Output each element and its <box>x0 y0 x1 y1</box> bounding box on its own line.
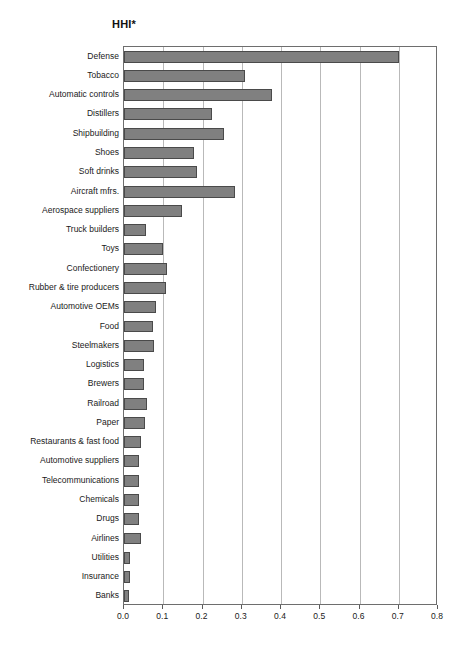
bar <box>124 70 245 82</box>
bar <box>124 590 129 602</box>
bar <box>124 340 154 352</box>
bar <box>124 89 272 101</box>
y-axis-label: Logistics <box>0 359 119 369</box>
bar <box>124 533 141 545</box>
y-axis-label: Automotive suppliers <box>0 455 119 465</box>
bar-row <box>124 494 436 506</box>
y-axis-label: Utilities <box>0 552 119 562</box>
y-axis-label: Steelmakers <box>0 340 119 350</box>
bar <box>124 282 166 294</box>
y-axis-label: Chemicals <box>0 494 119 504</box>
x-axis-tick-label: 0.8 <box>431 611 443 621</box>
y-axis-label: Paper <box>0 417 119 427</box>
x-axis-tick <box>241 605 242 609</box>
x-axis-tick <box>202 605 203 609</box>
bar-row <box>124 166 436 178</box>
bar <box>124 108 212 120</box>
x-axis: 0.00.10.20.30.40.50.60.70.8 <box>123 605 437 635</box>
bar-row <box>124 147 436 159</box>
bar-row <box>124 243 436 255</box>
bar-row <box>124 359 436 371</box>
y-axis-label: Automotive OEMs <box>0 301 119 311</box>
bar-row <box>124 455 436 467</box>
bar <box>124 243 163 255</box>
bar-row <box>124 263 436 275</box>
bar <box>124 51 399 63</box>
bar-row <box>124 224 436 236</box>
bar <box>124 263 167 275</box>
y-axis-label: Drugs <box>0 513 119 523</box>
bar-row <box>124 533 436 545</box>
y-axis-label: Restaurants & fast food <box>0 436 119 446</box>
y-axis-label: Soft drinks <box>0 166 119 176</box>
bar-row <box>124 398 436 410</box>
y-axis-label: Truck builders <box>0 224 119 234</box>
bar-row <box>124 552 436 564</box>
x-axis-tick-label: 0.7 <box>392 611 404 621</box>
x-axis-tick <box>162 605 163 609</box>
bar <box>124 398 147 410</box>
bar <box>124 417 145 429</box>
bar-row <box>124 475 436 487</box>
bar-row <box>124 186 436 198</box>
y-axis-label: Rubber & tire producers <box>0 282 119 292</box>
bar <box>124 147 194 159</box>
y-axis-label: Shipbuilding <box>0 128 119 138</box>
bars-layer <box>124 47 436 604</box>
bar <box>124 321 153 333</box>
bar <box>124 359 144 371</box>
bar <box>124 494 139 506</box>
x-axis-tick-label: 0.6 <box>353 611 365 621</box>
x-axis-tick <box>280 605 281 609</box>
bar-row <box>124 89 436 101</box>
bar <box>124 436 141 448</box>
x-axis-tick-label: 0.2 <box>196 611 208 621</box>
bar-row <box>124 513 436 525</box>
y-axis-label: Distillers <box>0 108 119 118</box>
bar-row <box>124 590 436 602</box>
bar-row <box>124 436 436 448</box>
x-axis-tick-label: 0.0 <box>117 611 129 621</box>
bar-row <box>124 70 436 82</box>
x-axis-tick <box>319 605 320 609</box>
bar <box>124 205 182 217</box>
bar <box>124 166 197 178</box>
y-axis-label: Aircraft mfrs. <box>0 186 119 196</box>
bar <box>124 513 139 525</box>
y-axis-label: Automatic controls <box>0 89 119 99</box>
bar <box>124 224 146 236</box>
x-axis-tick-label: 0.3 <box>235 611 247 621</box>
bar <box>124 475 139 487</box>
x-axis-tick <box>437 605 438 609</box>
y-axis-label: Food <box>0 321 119 331</box>
chart-title: HHI* <box>112 18 136 30</box>
x-axis-tick <box>398 605 399 609</box>
bar <box>124 571 130 583</box>
bar-row <box>124 340 436 352</box>
bar-row <box>124 321 436 333</box>
y-axis-label: Confectionery <box>0 263 119 273</box>
y-axis-label: Telecommunications <box>0 475 119 485</box>
y-axis-label: Airlines <box>0 533 119 543</box>
y-axis-label: Shoes <box>0 147 119 157</box>
x-axis-tick-label: 0.1 <box>156 611 168 621</box>
bar-row <box>124 571 436 583</box>
y-axis-label: Defense <box>0 51 119 61</box>
x-axis-tick <box>359 605 360 609</box>
bar <box>124 378 144 390</box>
bar <box>124 552 130 564</box>
bar <box>124 128 224 140</box>
bar-row <box>124 417 436 429</box>
bar-row <box>124 108 436 120</box>
x-axis-tick-label: 0.5 <box>313 611 325 621</box>
y-axis-label: Banks <box>0 590 119 600</box>
x-axis-tick-label: 0.4 <box>274 611 286 621</box>
bar-row <box>124 51 436 63</box>
y-axis-label: Brewers <box>0 378 119 388</box>
y-axis-label: Tobacco <box>0 70 119 80</box>
y-axis-label: Insurance <box>0 571 119 581</box>
y-axis-category-labels: DefenseTobaccoAutomatic controlsDistille… <box>0 46 119 605</box>
x-axis-tick <box>123 605 124 609</box>
bar-row <box>124 282 436 294</box>
bar <box>124 301 156 313</box>
